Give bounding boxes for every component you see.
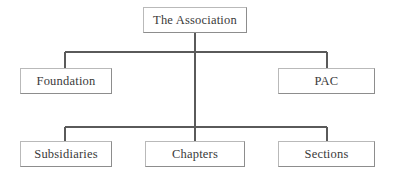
node-sections[interactable]: Sections [278,141,375,167]
node-subsidiaries[interactable]: Subsidiaries [20,141,112,167]
node-label: PAC [315,75,339,88]
node-foundation[interactable]: Foundation [20,68,112,94]
organization-chart: The Association Foundation PAC Subsidiar… [0,0,394,175]
node-label: The Association [153,14,237,27]
node-label: Sections [305,148,349,161]
node-label: Foundation [37,75,96,88]
node-label: Subsidiaries [34,148,98,161]
node-chapters[interactable]: Chapters [145,141,245,167]
node-pac[interactable]: PAC [278,68,375,94]
node-the-association[interactable]: The Association [143,7,247,33]
node-label: Chapters [172,148,218,161]
